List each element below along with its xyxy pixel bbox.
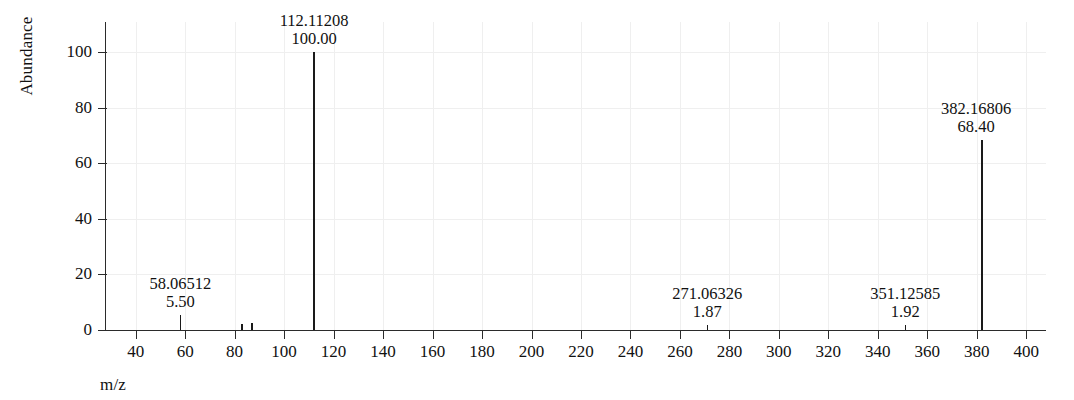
gridline-horizontal: [106, 219, 1046, 220]
peak-line: [251, 323, 252, 330]
x-axis-tick: [433, 331, 434, 339]
peak-abundance-value: 100.00: [214, 30, 414, 48]
gridline-vertical: [334, 22, 335, 330]
peak-line: [180, 315, 181, 330]
x-axis-tick: [977, 331, 978, 339]
y-axis-tick-label: 80: [46, 99, 92, 116]
peak-mz-value: 58.06512: [80, 275, 280, 293]
x-axis-tick: [235, 331, 236, 339]
peak-mz-value: 271.06326: [607, 285, 807, 303]
gridline-vertical: [482, 22, 483, 330]
x-axis-tick: [136, 331, 137, 339]
gridline-vertical: [1026, 22, 1027, 330]
x-axis-tick: [185, 331, 186, 339]
x-axis-tick: [581, 331, 582, 339]
x-axis-tick: [1026, 331, 1027, 339]
x-axis-tick: [482, 331, 483, 339]
x-axis-tick: [878, 331, 879, 339]
y-axis-tick: [98, 330, 107, 331]
gridline-vertical: [779, 22, 780, 330]
y-axis-tick-label: 40: [46, 210, 92, 227]
y-axis-tick-label: 0: [46, 321, 92, 338]
x-axis-tick-label: 400: [996, 343, 1056, 360]
x-axis-tick: [630, 331, 631, 339]
peak-label: 382.1680668.40: [876, 100, 1074, 137]
gridline-vertical: [630, 22, 631, 330]
peak-abundance-value: 1.92: [805, 303, 1005, 321]
gridline-vertical: [383, 22, 384, 330]
peak-label: 351.125851.92: [805, 285, 1005, 322]
peak-label: 271.063261.87: [607, 285, 807, 322]
gridline-vertical: [532, 22, 533, 330]
y-axis-tick-label: 100: [46, 43, 92, 60]
peak-label: 112.11208100.00: [214, 12, 414, 49]
peak-mz-value: 351.12585: [805, 285, 1005, 303]
gridline-vertical: [284, 22, 285, 330]
peak-line: [707, 325, 708, 330]
peak-abundance-value: 1.87: [607, 303, 807, 321]
x-axis-tick: [383, 331, 384, 339]
peak-line: [241, 324, 242, 330]
peak-label: 58.065125.50: [80, 275, 280, 312]
x-axis-tick: [284, 331, 285, 339]
x-axis-tick: [927, 331, 928, 339]
peak-mz-value: 112.11208: [214, 12, 414, 30]
peak-line: [905, 325, 906, 330]
mass-spectrum-chart: Abundance m/z 020406080100 4060801001201…: [0, 0, 1074, 400]
y-axis-title: Abundance: [17, 0, 37, 116]
gridline-vertical: [581, 22, 582, 330]
x-axis-line: [106, 330, 1046, 331]
x-axis-tick: [532, 331, 533, 339]
peak-mz-value: 382.16806: [876, 100, 1074, 118]
x-axis-tick: [779, 331, 780, 339]
x-axis-title: m/z: [100, 375, 126, 395]
x-axis-tick: [828, 331, 829, 339]
x-axis-tick: [334, 331, 335, 339]
x-axis-tick: [680, 331, 681, 339]
gridline-horizontal: [106, 163, 1046, 164]
gridline-horizontal: [106, 52, 1046, 53]
y-axis-tick: [98, 52, 107, 53]
y-axis-tick: [98, 219, 107, 220]
y-axis-tick-label: 60: [46, 154, 92, 171]
peak-abundance-value: 68.40: [876, 118, 1074, 136]
peak-abundance-value: 5.50: [80, 293, 280, 311]
y-axis-tick: [98, 108, 107, 109]
x-axis-tick: [729, 331, 730, 339]
y-axis-tick: [98, 163, 107, 164]
peak-line: [313, 52, 314, 330]
gridline-vertical: [433, 22, 434, 330]
